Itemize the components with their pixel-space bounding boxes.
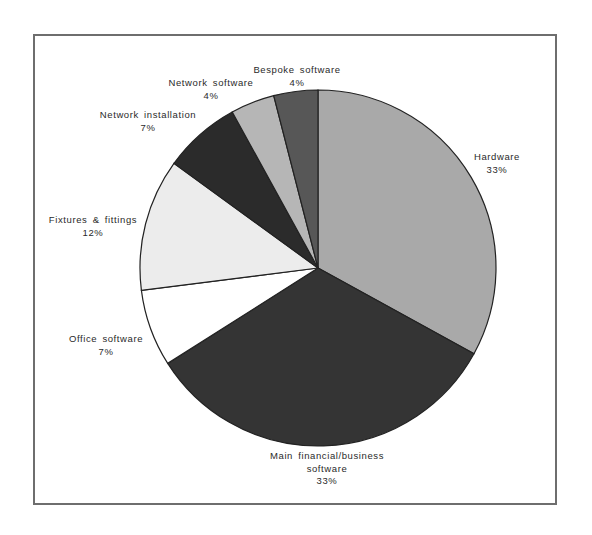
label-office-name: Office software — [69, 333, 143, 346]
label-hardware-pct: 33% — [474, 164, 520, 177]
label-netsoft-pct: 4% — [169, 90, 254, 103]
label-main-name-2: software — [270, 463, 384, 476]
label-bespoke-name: Bespoke software — [253, 64, 340, 77]
label-hardware: Hardware 33% — [474, 151, 520, 176]
label-office-pct: 7% — [69, 346, 143, 359]
label-netinst-name: Network installation — [100, 109, 196, 122]
label-bespoke-software: Bespoke software 4% — [253, 64, 340, 89]
label-fixtures-name: Fixtures & fittings — [49, 214, 137, 227]
label-main-pct: 33% — [270, 475, 384, 488]
label-main-name: Main financial/business — [270, 450, 384, 463]
label-fixtures-pct: 12% — [49, 227, 137, 240]
label-bespoke-pct: 4% — [253, 77, 340, 90]
label-main-financial: Main financial/business software 33% — [270, 450, 384, 488]
label-network-installation: Network installation 7% — [100, 109, 196, 134]
label-office-software: Office software 7% — [69, 333, 143, 358]
label-fixtures: Fixtures & fittings 12% — [49, 214, 137, 239]
label-hardware-name: Hardware — [474, 151, 520, 164]
label-netsoft-name: Network software — [169, 77, 254, 90]
label-network-software: Network software 4% — [169, 77, 254, 102]
label-netinst-pct: 7% — [100, 122, 196, 135]
